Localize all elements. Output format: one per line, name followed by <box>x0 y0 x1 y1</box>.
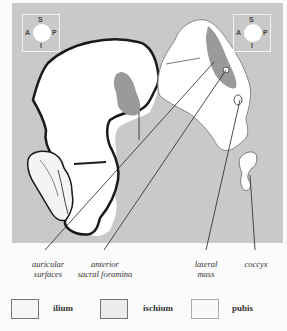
label-coccyx: coccyx <box>240 259 272 269</box>
legend-label-pubis: pubis <box>232 303 253 313</box>
sacral-foramen-2 <box>234 95 242 105</box>
label-lateral-mass: lateral mass <box>188 259 224 279</box>
coccyx-bone <box>239 152 257 191</box>
legend-swatch-pubis <box>191 299 219 319</box>
legend-label-ilium: ilium <box>53 303 73 313</box>
label-auricular-surfaces: auricular surfaces <box>26 259 70 279</box>
compass-anterior-label: A <box>25 29 30 36</box>
compass-inferior-label: I <box>251 42 253 49</box>
legend-label-ischium: ischium <box>143 303 173 313</box>
legend-swatch-ilium <box>11 299 39 319</box>
compass-superior-label: S <box>249 16 254 23</box>
compass-posterior-label: P <box>52 29 57 36</box>
legend-swatch-ischium <box>100 299 128 319</box>
orientation-compass-right: S I A P <box>233 14 271 52</box>
orientation-compass-left: S I A P <box>22 14 60 52</box>
compass-inferior-label: I <box>40 42 42 49</box>
compass-posterior-label: P <box>263 29 268 36</box>
label-anterior-sacral-foramina: anterior sacral foramina <box>75 259 135 279</box>
compass-superior-label: S <box>38 16 43 23</box>
compass-anterior-label: A <box>236 29 241 36</box>
